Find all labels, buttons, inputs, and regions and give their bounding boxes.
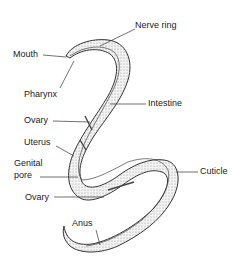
label-genital-pore-line1: Genital [14,158,43,169]
label-genital-pore-line2: pore [14,170,32,181]
label-mouth: Mouth [13,49,38,60]
label-ovary-lower: Ovary [25,192,49,203]
label-ovary-upper: Ovary [24,115,48,126]
label-nerve-ring: Nerve ring [135,20,177,31]
label-pharynx: Pharynx [24,89,57,100]
label-cuticle: Cuticle [200,166,228,177]
label-uterus: Uterus [24,137,51,148]
label-intestine: Intestine [148,98,182,109]
label-anus: Anus [72,218,93,229]
